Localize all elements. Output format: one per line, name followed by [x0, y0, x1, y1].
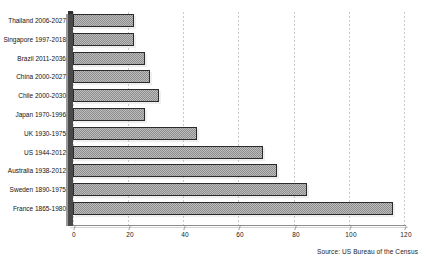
x-tick-20	[128, 226, 130, 230]
x-tick-label-80: 80	[292, 231, 300, 238]
bar[interactable]	[73, 183, 307, 196]
category-label: Singapore 1997-2018	[0, 36, 66, 43]
category-label: UK 1930-1975	[0, 130, 66, 137]
bar[interactable]	[73, 14, 134, 27]
x-tick-80	[294, 226, 296, 230]
x-tick-label-40: 40	[181, 231, 189, 238]
bar[interactable]	[73, 164, 277, 177]
x-tick-label-120: 120	[400, 231, 411, 238]
x-tick-label-60: 60	[236, 231, 244, 238]
x-axis-line	[68, 225, 406, 226]
category-label: Japan 1970-1996	[0, 111, 66, 118]
x-tick-40	[183, 226, 185, 230]
x-tick-120	[404, 226, 406, 230]
bar[interactable]	[73, 89, 159, 102]
category-label: Australia 1938-2012	[0, 167, 66, 174]
bar[interactable]	[73, 33, 134, 46]
bar[interactable]	[73, 108, 145, 121]
source-note: Source: US Bureau of the Census	[317, 248, 418, 255]
x-tick-100	[349, 226, 351, 230]
gridline-120	[404, 12, 405, 225]
category-label: France 1865-1980	[0, 205, 66, 212]
x-tick-label-0: 0	[72, 231, 76, 238]
x-tick-label-20: 20	[126, 231, 134, 238]
x-tick-label-100: 100	[345, 231, 356, 238]
category-label: Chile 2000-2030	[0, 92, 66, 99]
category-label: Thailand 2006-2027	[0, 17, 66, 24]
bar[interactable]	[73, 127, 197, 140]
x-tick-0	[73, 226, 75, 230]
x-tick-60	[238, 226, 240, 230]
bar-chart: 0 20 40 60 80 100 120 Thailand 2006-2027…	[0, 0, 426, 261]
category-label: Sweden 1890-1975	[0, 186, 66, 193]
category-label: Brazil 2011-2036	[0, 55, 66, 62]
category-label: US 1944-2012	[0, 149, 66, 156]
bar[interactable]	[73, 70, 150, 83]
category-label: China 2000-2027	[0, 73, 66, 80]
gridline-100	[349, 12, 350, 225]
bar[interactable]	[73, 146, 263, 159]
bar[interactable]	[73, 52, 145, 65]
bar[interactable]	[73, 202, 393, 215]
